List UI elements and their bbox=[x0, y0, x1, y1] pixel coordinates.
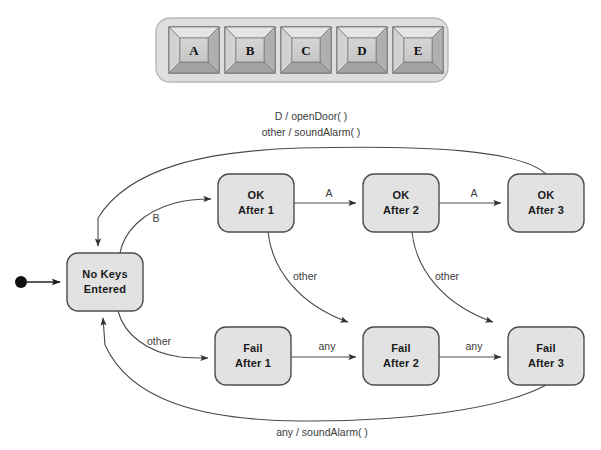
transition-label-other-soundalarm: other / soundAlarm( ) bbox=[262, 126, 361, 138]
key-e-label: E bbox=[414, 43, 423, 58]
transition-label-other-ok1-fail2: other bbox=[293, 270, 317, 282]
state-no-keys-entered-box bbox=[67, 253, 143, 311]
state-fail-after-1-line1: Fail bbox=[243, 342, 263, 354]
transition-label-a-ok2-ok3: A bbox=[470, 187, 477, 199]
state-no-keys-entered-line2: Entered bbox=[84, 283, 126, 295]
state-machine-figure: A B C D bbox=[0, 0, 601, 450]
state-no-keys-entered[interactable]: No Keys Entered bbox=[67, 253, 143, 311]
state-ok-after-1-line1: OK bbox=[248, 189, 265, 201]
key-d-label: D bbox=[357, 43, 366, 58]
state-ok-after-2-line2: After 2 bbox=[383, 204, 419, 216]
transition-label-any-fail1-fail2: any bbox=[319, 340, 337, 352]
state-fail-after-3-line2: After 3 bbox=[528, 357, 564, 369]
state-ok-after-3-line1: OK bbox=[538, 189, 555, 201]
key-c-label: C bbox=[301, 43, 310, 58]
state-fail-after-1-box bbox=[215, 327, 291, 385]
transition-label-any-soundalarm: any / soundAlarm( ) bbox=[276, 426, 368, 438]
state-ok-after-3-box bbox=[508, 174, 584, 232]
state-fail-after-3-box bbox=[508, 327, 584, 385]
state-fail-after-2-line2: After 2 bbox=[383, 357, 419, 369]
state-fail-after-1[interactable]: Fail After 1 bbox=[215, 327, 291, 385]
state-fail-after-2-line1: Fail bbox=[391, 342, 411, 354]
state-ok-after-3[interactable]: OK After 3 bbox=[508, 174, 584, 232]
key-e[interactable]: E bbox=[393, 27, 443, 73]
state-fail-after-1-line2: After 1 bbox=[235, 357, 271, 369]
edge-fail3-to-nokeys bbox=[103, 318, 546, 421]
states-layer: No Keys Entered OK After 1 OK After 2 OK… bbox=[67, 174, 584, 385]
edge-nokeys-to-ok1 bbox=[120, 199, 211, 253]
state-fail-after-3[interactable]: Fail After 3 bbox=[508, 327, 584, 385]
state-fail-after-2-box bbox=[363, 327, 439, 385]
state-ok-after-2-line1: OK bbox=[393, 189, 410, 201]
key-b[interactable]: B bbox=[225, 27, 275, 73]
transition-label-a-ok1-ok2: A bbox=[325, 187, 332, 199]
state-fail-after-2[interactable]: Fail After 2 bbox=[363, 327, 439, 385]
state-ok-after-1[interactable]: OK After 1 bbox=[218, 174, 294, 232]
state-ok-after-2-box bbox=[363, 174, 439, 232]
state-ok-after-2[interactable]: OK After 2 bbox=[363, 174, 439, 232]
transition-label-b: B bbox=[152, 212, 159, 224]
key-a-label: A bbox=[189, 43, 199, 58]
transition-label-other-nokeys-fail1: other bbox=[147, 335, 171, 347]
state-no-keys-entered-line1: No Keys bbox=[82, 268, 127, 280]
transition-label-any-fail2-fail3: any bbox=[466, 340, 484, 352]
state-ok-after-1-box bbox=[218, 174, 294, 232]
initial-state-marker bbox=[15, 276, 27, 288]
state-ok-after-1-line2: After 1 bbox=[238, 204, 274, 216]
key-a[interactable]: A bbox=[169, 27, 219, 73]
key-b-label: B bbox=[246, 43, 255, 58]
key-d[interactable]: D bbox=[337, 27, 387, 73]
state-ok-after-3-line2: After 3 bbox=[528, 204, 564, 216]
keypad: A B C D bbox=[156, 18, 448, 82]
transition-label-other-ok2-fail3: other bbox=[435, 270, 459, 282]
state-fail-after-3-line1: Fail bbox=[536, 342, 556, 354]
transition-label-d-opendoor: D / openDoor( ) bbox=[275, 110, 347, 122]
key-c[interactable]: C bbox=[281, 27, 331, 73]
edge-ok3-to-nokeys bbox=[98, 147, 546, 246]
